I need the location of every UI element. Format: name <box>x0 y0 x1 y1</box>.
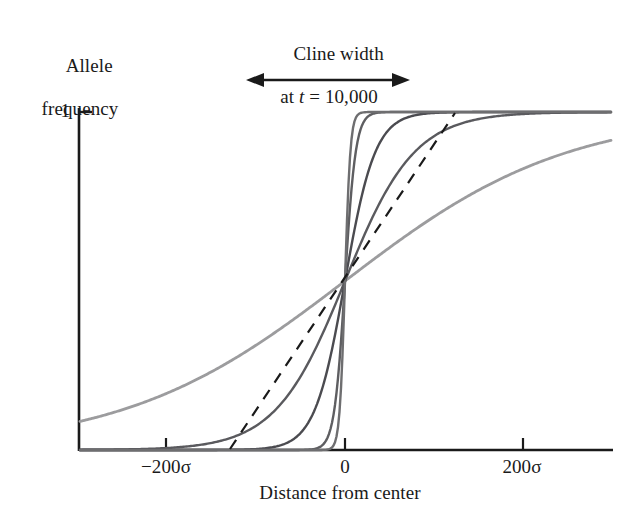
x-axis-tick-label-minus-200-sigma: −200σ <box>120 456 212 477</box>
cline-width-annotation-label: Cline width at t = 10,000 <box>245 22 413 150</box>
annotation-at-prefix: at <box>280 86 299 107</box>
x-axis-tick-label-200-sigma: 200σ <box>478 456 566 477</box>
y-axis-title: Allele frequency <box>14 34 146 162</box>
x-axis-title: Distance from center <box>190 482 490 503</box>
cline-width-figure: Cline width at t = 10,000 Allele frequen… <box>0 0 639 512</box>
tangent-dashed-line <box>230 113 455 449</box>
y-axis-tick-label-1: 1 <box>48 100 70 121</box>
y-axis-title-line-2: frequency <box>14 98 146 119</box>
annotation-time-value: = 10,000 <box>304 86 377 107</box>
cline-curve-group <box>80 112 611 450</box>
y-axis-title-line-1: Allele <box>66 55 113 76</box>
annotation-line-2: at t = 10,000 <box>245 86 413 107</box>
annotation-line-1: Cline width <box>294 43 384 64</box>
x-axis-ticks <box>166 438 523 450</box>
x-axis-tick-label-zero: 0 <box>330 456 360 477</box>
cline-curve-cline-1-steepest <box>80 112 611 450</box>
